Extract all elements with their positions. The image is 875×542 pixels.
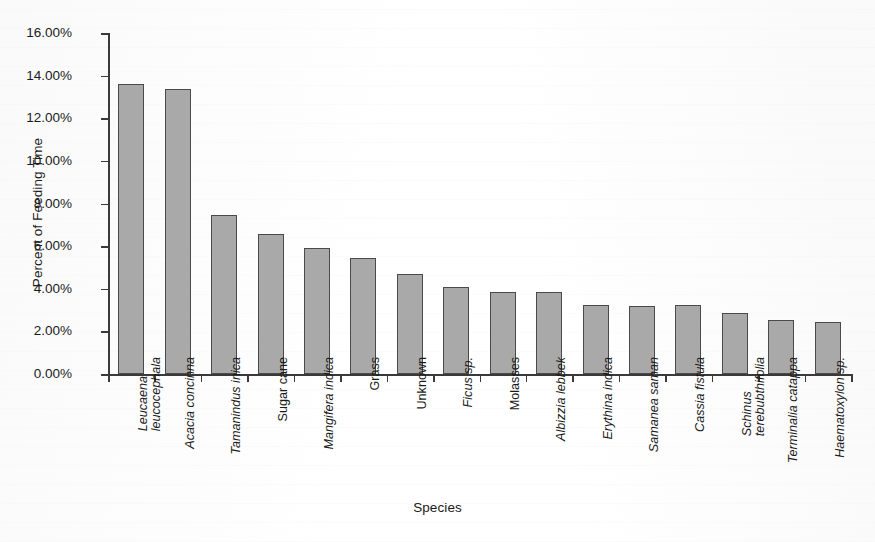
plot-area: 16.00%14.00%12.00%10.00%8.00%6.00%4.00%2… — [108, 33, 851, 374]
y-axis-line — [108, 33, 110, 374]
y-axis-tick-label: 0.00% — [0, 366, 72, 381]
y-axis-tick-label: 8.00% — [0, 196, 72, 211]
x-axis-category-label: Erythina indica — [602, 357, 615, 440]
bar — [165, 89, 191, 374]
y-axis-tick — [101, 246, 108, 248]
y-axis-tick — [101, 204, 108, 206]
x-axis-tick — [433, 374, 435, 382]
y-axis-tick — [101, 33, 108, 35]
bar — [118, 84, 144, 374]
x-axis-category-label: Terminalia catappa — [787, 357, 800, 463]
x-axis-category-label: Haematoxylon sp. — [834, 357, 847, 458]
y-axis-tick-label: 16.00% — [0, 25, 72, 40]
y-axis-tick — [101, 374, 108, 376]
x-axis-category-label: Tamanindus inica — [230, 357, 243, 455]
x-axis-tick — [805, 374, 807, 382]
x-axis-title: Species — [0, 500, 875, 515]
y-axis-tick-label: 10.00% — [0, 153, 72, 168]
y-axis-tick-label: 2.00% — [0, 323, 72, 338]
y-axis-tick — [101, 118, 108, 120]
x-axis-category-label: Acacia concinna — [184, 357, 197, 449]
x-axis-category-label: Leucaena leucocephala — [137, 357, 164, 431]
bar — [304, 248, 330, 374]
y-axis-tick-label: 14.00% — [0, 68, 72, 83]
y-axis-tick — [101, 331, 108, 333]
x-axis-category-label: Cassia fistula — [694, 357, 707, 432]
x-axis-tick — [712, 374, 714, 382]
x-axis-tick — [572, 374, 574, 382]
x-axis-tick — [294, 374, 296, 382]
x-axis-category-label: Albizzia lebbek — [555, 357, 568, 441]
y-axis-tick — [101, 161, 108, 163]
x-axis-tick — [665, 374, 667, 382]
bar — [211, 215, 237, 374]
x-axis-tick — [247, 374, 249, 382]
x-axis-category-label: Unknown — [416, 357, 429, 410]
x-axis-tick — [619, 374, 621, 382]
x-axis-category-label: Ficus sp. — [462, 357, 475, 407]
x-axis-category-label: Mangifera indica — [323, 357, 336, 449]
x-axis-tick — [526, 374, 528, 382]
bar — [258, 234, 284, 374]
x-axis-category-label: Molasses — [509, 357, 522, 410]
x-axis-tick — [108, 374, 110, 382]
y-axis-tick — [101, 289, 108, 291]
y-axis-tick-label: 12.00% — [0, 110, 72, 125]
x-axis-tick — [387, 374, 389, 382]
x-axis-category-label: Samanea saman — [648, 357, 661, 452]
feeding-time-bar-chart: Percent of Feeding Time 16.00%14.00%12.0… — [0, 0, 875, 542]
x-axis-category-label: Grass — [369, 357, 382, 391]
y-axis-tick-label: 6.00% — [0, 238, 72, 253]
x-axis-tick — [851, 374, 853, 382]
y-axis-tick-label: 4.00% — [0, 281, 72, 296]
x-axis-tick — [340, 374, 342, 382]
y-axis-tick — [101, 76, 108, 78]
x-axis-tick — [201, 374, 203, 382]
x-axis-category-label: Sugar cane — [277, 357, 290, 421]
x-axis-category-label: Schinus terebubthifolia — [741, 357, 768, 436]
x-axis-tick — [480, 374, 482, 382]
